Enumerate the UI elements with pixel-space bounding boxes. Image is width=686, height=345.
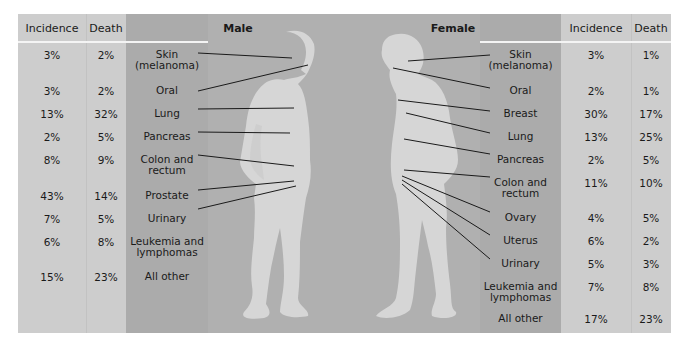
death-value: 8% (631, 281, 671, 293)
site-label: All other (126, 271, 208, 282)
male-silhouette-icon (240, 31, 315, 319)
incidence-value: 3% (18, 85, 86, 97)
incidence-value: 5% (561, 258, 631, 270)
death-value: 14% (86, 190, 126, 202)
site-label: Skin(melanoma) (480, 49, 561, 71)
female-silhouette-icon (376, 34, 458, 318)
site-label: Colon andrectum (126, 154, 208, 176)
site-label: Lung (480, 131, 561, 142)
site-label: Oral (126, 85, 208, 96)
site-label: Breast (480, 108, 561, 119)
death-value: 23% (631, 313, 671, 325)
death-value: 2% (631, 235, 671, 247)
death-value: 8% (86, 236, 126, 248)
site-label: Uterus (480, 235, 561, 246)
incidence-value: 6% (18, 236, 86, 248)
incidence-value: 13% (18, 108, 86, 120)
site-label: Leukemia andlymphomas (126, 236, 208, 258)
incidence-value: 8% (18, 154, 86, 166)
death-value: 2% (86, 49, 126, 61)
site-label: Colon andrectum (480, 177, 561, 199)
incidence-value: 6% (561, 235, 631, 247)
incidence-value: 2% (561, 85, 631, 97)
incidence-value: 2% (561, 154, 631, 166)
death-value: 23% (86, 271, 126, 283)
incidence-value: 2% (18, 131, 86, 143)
site-label: Lung (126, 108, 208, 119)
incidence-value: 17% (561, 313, 631, 325)
incidence-value: 11% (561, 177, 631, 189)
death-value: 5% (631, 212, 671, 224)
incidence-value: 30% (561, 108, 631, 120)
site-label: Skin(melanoma) (126, 49, 208, 71)
site-label: Leukemia andlymphomas (480, 281, 561, 303)
site-label: Prostate (126, 190, 208, 201)
site-label: Pancreas (126, 131, 208, 142)
site-label: Urinary (480, 258, 561, 269)
death-value: 10% (631, 177, 671, 189)
death-value: 1% (631, 85, 671, 97)
site-label: Urinary (126, 213, 208, 224)
death-value: 3% (631, 258, 671, 270)
death-value: 5% (86, 131, 126, 143)
site-label: Oral (480, 85, 561, 96)
incidence-value: 15% (18, 271, 86, 283)
cancer-statistics-panel: Incidence Death Male Female Incidence De… (18, 14, 671, 333)
incidence-value: 43% (18, 190, 86, 202)
incidence-value: 4% (561, 212, 631, 224)
site-label: Ovary (480, 212, 561, 223)
incidence-value: 3% (561, 49, 631, 61)
death-value: 2% (86, 85, 126, 97)
incidence-value: 3% (18, 49, 86, 61)
incidence-value: 7% (18, 213, 86, 225)
death-value: 17% (631, 108, 671, 120)
death-value: 32% (86, 108, 126, 120)
incidence-value: 13% (561, 131, 631, 143)
death-value: 5% (86, 213, 126, 225)
death-value: 25% (631, 131, 671, 143)
site-label: Pancreas (480, 154, 561, 165)
incidence-value: 7% (561, 281, 631, 293)
death-value: 1% (631, 49, 671, 61)
death-value: 9% (86, 154, 126, 166)
site-label: All other (480, 313, 561, 324)
death-value: 5% (631, 154, 671, 166)
